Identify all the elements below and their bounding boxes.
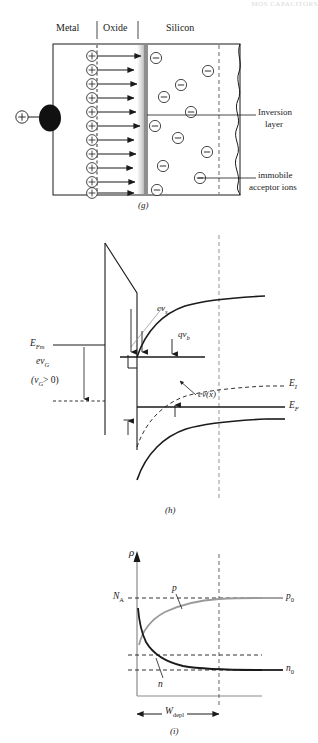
p-curve <box>139 598 262 645</box>
n-label: n <box>158 679 163 689</box>
acceptor-ions-label-line2: acceptor ions <box>249 182 297 192</box>
field-arrow <box>98 56 141 193</box>
n0-label: n0 <box>286 663 294 675</box>
panel-id-h: (h) <box>165 505 176 515</box>
NA-label: NA <box>113 591 124 603</box>
valence-band-curve <box>137 419 266 480</box>
E-I-label: EI <box>289 378 297 390</box>
region-label-oxide: Oxide <box>103 22 127 33</box>
E-Fm-label: EFm <box>30 338 44 350</box>
region-label-metal: Metal <box>56 22 79 33</box>
vG-condition-label: (vG> 0) <box>31 375 59 387</box>
region-label-silicon: Silicon <box>166 22 194 33</box>
panel-i-diagram <box>0 548 318 743</box>
inversion-layer-label-line2: layer <box>265 119 283 129</box>
p-label: p <box>172 583 177 593</box>
acceptor-ions-label-line1: immobile <box>258 170 293 180</box>
panel-id-i: (i) <box>170 726 179 736</box>
ev-s-label: evs <box>157 303 168 315</box>
qv-b-label: qvb <box>178 329 190 341</box>
rho-axis-label: ρ <box>129 546 134 558</box>
panel-id-g: (g) <box>138 200 149 210</box>
E-F-label: EF <box>289 400 299 412</box>
W-depl-label: Wdepl <box>162 706 187 718</box>
p0-label: p0 <box>286 591 294 603</box>
ev-G-label: evG <box>36 356 49 368</box>
n-leader <box>156 658 163 678</box>
ev-x-label: ev(x) <box>198 389 216 399</box>
figure-container: Metal Oxide Silicon Inversion layer immo… <box>0 0 318 743</box>
inversion-layer-label-line1: Inversion <box>258 107 292 117</box>
